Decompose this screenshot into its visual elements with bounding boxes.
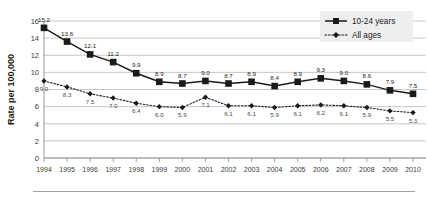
data-label-all-ages: 6.1 xyxy=(293,110,302,117)
data-label-10-24-years: 9.0 xyxy=(340,69,349,76)
data-label-all-ages: 6.1 xyxy=(247,110,256,117)
data-label-10-24-years: 8.4 xyxy=(270,74,279,81)
data-point-10-24-years xyxy=(317,75,324,82)
data-label-10-24-years: 11.2 xyxy=(107,50,119,57)
data-label-all-ages: 6.4 xyxy=(132,107,141,114)
data-point-all-ages xyxy=(364,105,369,110)
data-label-10-24-years: 8.7 xyxy=(178,72,187,79)
data-label-all-ages: 5.9 xyxy=(178,111,187,118)
data-point-10-24-years xyxy=(410,90,417,97)
data-point-all-ages xyxy=(341,103,346,108)
data-label-all-ages: 5.9 xyxy=(363,111,372,118)
data-point-10-24-years xyxy=(64,38,71,45)
data-point-all-ages xyxy=(387,108,392,113)
chart-container: 0246810121416Rate per 100,00019941995199… xyxy=(0,0,428,199)
data-label-10-24-years: 15.2 xyxy=(38,16,51,23)
x-axis-tick-label: 2005 xyxy=(290,166,306,173)
x-axis-tick-label: 1997 xyxy=(105,166,121,173)
data-label-all-ages: 6.0 xyxy=(155,111,164,118)
data-point-10-24-years xyxy=(248,78,255,85)
data-point-all-ages xyxy=(295,103,300,108)
x-axis-tick-label: 1994 xyxy=(36,166,52,173)
data-point-all-ages xyxy=(64,84,69,89)
data-point-10-24-years xyxy=(294,78,301,85)
y-axis-tick-label: 0 xyxy=(35,154,39,163)
data-label-10-24-years: 7.5 xyxy=(409,82,418,89)
data-point-10-24-years xyxy=(87,51,94,58)
data-point-all-ages xyxy=(110,95,115,100)
data-point-10-24-years xyxy=(225,80,232,87)
x-axis-tick-label: 2009 xyxy=(382,166,398,173)
data-label-all-ages: 7.5 xyxy=(86,98,95,105)
x-axis-tick-label: 2007 xyxy=(336,166,352,173)
data-label-all-ages: 5.3 xyxy=(409,117,418,124)
y-axis-tick-label: 6 xyxy=(35,102,39,111)
legend-label-all-ages: All ages xyxy=(352,31,381,40)
data-label-10-24-years: 12.1 xyxy=(84,42,97,49)
data-point-all-ages xyxy=(87,91,92,96)
data-point-10-24-years xyxy=(387,87,394,94)
x-axis-tick-label: 2000 xyxy=(175,166,191,173)
data-label-10-24-years: 8.9 xyxy=(247,70,256,77)
legend-marker-10-24-years xyxy=(333,18,339,24)
x-axis-tick-label: 2008 xyxy=(359,166,375,173)
y-axis-tick-label: 14 xyxy=(31,34,39,43)
line-chart: 0246810121416Rate per 100,00019941995199… xyxy=(0,0,428,199)
data-label-10-24-years: 9.3 xyxy=(316,66,325,73)
data-label-all-ages: 7.0 xyxy=(109,102,118,109)
data-point-10-24-years xyxy=(271,83,278,90)
data-point-10-24-years xyxy=(156,78,163,85)
data-label-10-24-years: 13.6 xyxy=(61,30,74,37)
data-point-10-24-years xyxy=(341,78,348,85)
data-point-all-ages xyxy=(410,110,415,115)
x-axis-tick-label: 2001 xyxy=(198,166,214,173)
x-axis-tick-label: 2010 xyxy=(405,166,421,173)
data-point-all-ages xyxy=(272,105,277,110)
data-label-10-24-years: 8.7 xyxy=(224,72,233,79)
data-point-all-ages xyxy=(134,101,139,106)
data-label-all-ages: 6.1 xyxy=(224,110,233,117)
data-label-10-24-years: 8.9 xyxy=(293,70,302,77)
x-axis-tick-label: 1999 xyxy=(152,166,168,173)
data-point-10-24-years xyxy=(179,80,186,87)
y-axis-tick-label: 4 xyxy=(35,120,39,129)
y-axis-tick-label: 2 xyxy=(35,137,39,146)
data-point-10-24-years xyxy=(110,59,117,66)
y-axis-tick-label: 8 xyxy=(35,85,39,94)
data-point-10-24-years xyxy=(202,78,209,85)
data-label-all-ages: 7.1 xyxy=(201,101,210,108)
data-point-all-ages xyxy=(226,103,231,108)
data-point-all-ages xyxy=(180,105,185,110)
data-label-all-ages: 8.3 xyxy=(63,91,72,98)
data-label-all-ages: 6.2 xyxy=(316,109,325,116)
data-label-all-ages: 5.5 xyxy=(386,115,395,122)
data-label-10-24-years: 8.6 xyxy=(363,72,372,79)
data-label-10-24-years: 8.9 xyxy=(155,70,164,77)
data-label-all-ages: 6.1 xyxy=(340,110,349,117)
data-label-all-ages: 9.0 xyxy=(40,85,49,92)
y-axis-tick-label: 12 xyxy=(31,51,39,60)
x-axis-tick-label: 1995 xyxy=(59,166,75,173)
data-point-all-ages xyxy=(203,95,208,100)
data-point-10-24-years xyxy=(133,70,140,77)
data-point-10-24-years xyxy=(364,81,371,88)
data-label-10-24-years: 9.0 xyxy=(201,69,210,76)
x-axis-tick-label: 2003 xyxy=(244,166,260,173)
x-axis-tick-label: 1998 xyxy=(128,166,144,173)
data-point-all-ages xyxy=(157,104,162,109)
y-axis-title: Rate per 100,000 xyxy=(6,54,16,125)
data-label-all-ages: 5.9 xyxy=(270,111,279,118)
x-axis-tick-label: 2004 xyxy=(267,166,283,173)
legend-label-10-24-years: 10-24 years xyxy=(352,17,395,26)
y-axis-tick-label: 10 xyxy=(31,68,39,77)
data-point-10-24-years xyxy=(41,25,48,32)
data-point-all-ages xyxy=(41,78,46,83)
x-axis-tick-label: 1996 xyxy=(82,166,98,173)
x-axis-tick-label: 2006 xyxy=(313,166,329,173)
data-label-10-24-years: 7.9 xyxy=(386,78,395,85)
data-point-all-ages xyxy=(249,103,254,108)
x-axis-tick-label: 2002 xyxy=(221,166,237,173)
data-label-10-24-years: 9.9 xyxy=(132,61,141,68)
